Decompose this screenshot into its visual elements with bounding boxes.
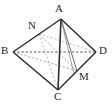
edge-bc bbox=[13, 52, 58, 90]
edge-cd bbox=[58, 52, 96, 90]
segment-bm bbox=[13, 52, 77, 71]
vertex-label-m: M bbox=[79, 71, 89, 82]
vertex-label-a: A bbox=[55, 3, 63, 14]
edge-a-to-m-lower bbox=[61, 19, 74, 74]
vertex-label-n: N bbox=[28, 20, 36, 31]
geometry-figure: A B C D N M bbox=[0, 0, 112, 106]
vertex-label-d: D bbox=[99, 45, 107, 56]
vertex-label-c: C bbox=[54, 91, 61, 102]
vertex-label-b: B bbox=[1, 45, 8, 56]
edge-ab bbox=[13, 19, 61, 52]
